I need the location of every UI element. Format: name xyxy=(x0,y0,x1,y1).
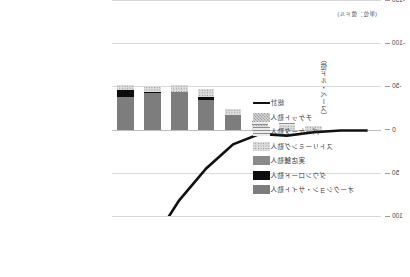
legend-item[interactable]: パーケータ勤人 xyxy=(248,125,363,138)
legend-label: ストリーミング勤人 xyxy=(270,142,333,151)
legend-item[interactable]: ストリーミング勤人 xyxy=(248,140,363,153)
legend-color-swatch xyxy=(253,127,270,136)
y-tick-label: 0 xyxy=(385,126,407,133)
y-tick-label: -100 xyxy=(385,39,407,46)
legend-label: ダウンロード勤人 xyxy=(270,171,326,180)
legend-label: チケット勤人 xyxy=(270,113,312,122)
legend-label: 実店舗勤人 xyxy=(270,156,305,165)
legend-color-swatch xyxy=(253,113,270,122)
legend: 総計チケット勤人パーケータ勤人ストリーミング勤人実店舗勤人ダウンロード勤人オーク… xyxy=(248,96,363,198)
legend-label: 総計 xyxy=(270,98,284,107)
y-tick-label: 100 xyxy=(385,212,407,219)
legend-item[interactable]: 総計 xyxy=(248,96,363,109)
legend-label: オークション・サイト勤人 xyxy=(270,185,354,194)
legend-item[interactable]: チケット勤人 xyxy=(248,111,363,124)
legend-color-swatch xyxy=(253,185,270,194)
y-tick-label: 50 xyxy=(385,169,407,176)
legend-item[interactable]: 実店舗勤人 xyxy=(248,154,363,167)
legend-color-swatch xyxy=(253,171,270,180)
gridline xyxy=(112,216,381,217)
legend-item[interactable]: オークション・サイト勤人 xyxy=(248,183,363,196)
legend-color-swatch xyxy=(253,156,270,165)
legend-line-swatch xyxy=(253,98,270,107)
legend-label: パーケータ勤人 xyxy=(270,127,319,136)
legend-item[interactable]: ダウンロード勤人 xyxy=(248,169,363,182)
y-tick-label: -150 xyxy=(385,0,407,3)
legend-color-swatch xyxy=(253,142,270,151)
